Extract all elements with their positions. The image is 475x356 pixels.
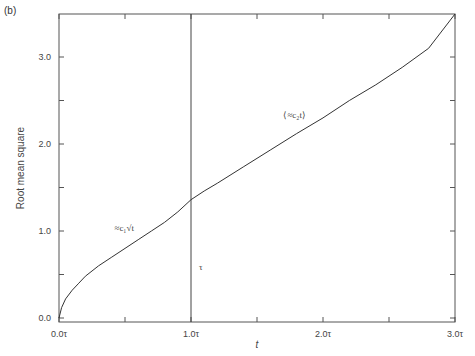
y-tick-label: 3.0 xyxy=(38,52,51,62)
y-tick-label: 2.0 xyxy=(38,139,51,149)
tau-label: τ xyxy=(199,262,203,272)
annotation-sqrt-regime: ≈c₁√t xyxy=(114,223,134,233)
chart: (b) 0.0τ1.0τ2.0τ3.0τ0.01.02.03.0τ≈c₁√t⟨≈… xyxy=(0,0,475,356)
x-tick-label: 3.0τ xyxy=(447,329,464,339)
y-tick-label: 0.0 xyxy=(38,313,51,323)
rms-curve xyxy=(59,14,455,318)
y-tick-label: 1.0 xyxy=(38,226,51,236)
x-tick-label: 1.0τ xyxy=(183,329,200,339)
x-tick-label: 2.0τ xyxy=(315,329,332,339)
annotation-linear-regime: ⟨≈c₂t⟩ xyxy=(283,110,306,120)
x-tick-label: 0.0τ xyxy=(51,329,68,339)
x-axis-label: t xyxy=(256,339,260,350)
plot-frame xyxy=(59,14,455,322)
plot-area: 0.0τ1.0τ2.0τ3.0τ0.01.02.03.0τ≈c₁√t⟨≈c₂t⟩ xyxy=(38,14,463,339)
y-axis-label: Root mean square xyxy=(15,126,26,209)
panel-label: (b) xyxy=(4,5,16,16)
